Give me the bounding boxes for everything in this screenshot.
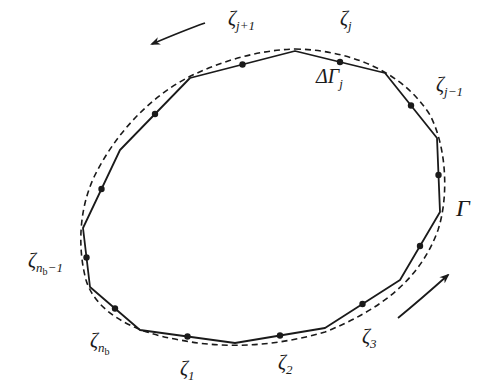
label-zeta-nb: ζnb [90, 330, 110, 357]
node-dot [112, 305, 118, 311]
node-dot [417, 243, 423, 249]
label-zeta-j-plus-1: ζj+1 [228, 8, 255, 32]
label-zeta-3: ζ3 [362, 326, 377, 350]
label-zeta-j: ζj [340, 8, 352, 32]
node-dot [98, 186, 104, 192]
label-zeta-j-minus-1: ζj−1 [436, 74, 463, 98]
node-dot [408, 102, 414, 108]
smooth-contour-gamma [81, 49, 445, 345]
node-dot [184, 333, 190, 339]
node-dot [277, 332, 283, 338]
collocation-nodes [83, 59, 441, 340]
node-dot [435, 172, 441, 178]
node-dot [83, 254, 89, 260]
label-gamma-contour: Γ [456, 196, 470, 220]
arrow-top-left [152, 23, 205, 44]
label-zeta-1: ζ1 [180, 358, 195, 382]
diagram-canvas [0, 0, 500, 391]
node-dot [239, 61, 245, 67]
contour-diagram: ζj+1 ζj ΔΓj ζj−1 Γ ζnb−1 ζnb ζ1 ζ2 ζ3 [0, 0, 500, 391]
node-dot [152, 111, 158, 117]
label-delta-gamma-j: ΔΓj [316, 66, 343, 90]
label-zeta-2: ζ2 [278, 352, 293, 376]
node-dot [359, 301, 365, 307]
label-zeta-nb-minus-1: ζnb−1 [28, 250, 63, 277]
